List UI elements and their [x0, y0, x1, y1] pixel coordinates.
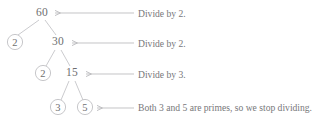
annotation-primes-stop: Both 3 and 5 are primes, so we stop divi…	[138, 102, 313, 114]
tree-edges	[18, 20, 83, 100]
node-value-60: 60	[36, 7, 48, 19]
node-value-30: 30	[52, 36, 64, 48]
annotation-divide-by-2-first: Divide by 2.	[138, 8, 186, 20]
annotation-divide-by-3: Divide by 3.	[138, 69, 186, 81]
edge-15-to-5	[75, 81, 83, 100]
edge-30-to-15	[61, 50, 70, 66]
edge-15-to-3	[61, 81, 69, 100]
edge-60-to-30	[45, 20, 56, 35]
node-value-2-top: 2	[12, 37, 17, 48]
edge-60-to-2	[18, 20, 39, 35]
node-value-2-mid: 2	[40, 68, 45, 79]
prime-node-circles	[7, 34, 92, 114]
node-value-15: 15	[66, 67, 78, 79]
annotation-divide-by-2-second: Divide by 2.	[138, 38, 186, 50]
edge-30-to-2	[46, 50, 55, 66]
node-value-3: 3	[55, 102, 60, 113]
node-value-5: 5	[82, 102, 87, 113]
